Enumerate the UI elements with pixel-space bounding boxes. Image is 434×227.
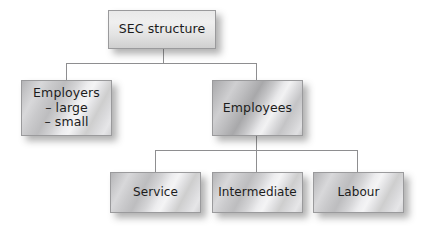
node-intermediate[interactable]: Intermediate — [212, 172, 303, 213]
node-sec-structure[interactable]: SEC structure — [108, 10, 216, 49]
node-employees[interactable]: Employees — [212, 80, 303, 136]
connector-to-employees — [256, 63, 257, 81]
node-sec-structure-label: SEC structure — [115, 22, 210, 37]
connector-to-employers — [66, 63, 67, 81]
node-employers[interactable]: Employers – large – small — [21, 80, 112, 136]
connector-to-labour — [357, 150, 358, 173]
node-labour-label: Labour — [333, 185, 383, 199]
node-service[interactable]: Service — [110, 172, 201, 213]
connector-root-stem — [163, 48, 164, 63]
connector-level2-bus — [66, 63, 257, 64]
connector-to-service — [155, 150, 156, 173]
connector-employees-stem — [256, 135, 257, 173]
node-intermediate-label: Intermediate — [214, 185, 301, 199]
connector-level3-bus — [155, 150, 358, 151]
node-employees-label: Employees — [219, 101, 296, 116]
sec-structure-diagram: SEC structure Employers – large – small … — [0, 0, 434, 227]
node-service-label: Service — [129, 185, 182, 199]
node-employers-label: Employers – large – small — [29, 86, 104, 130]
node-labour[interactable]: Labour — [313, 172, 404, 213]
